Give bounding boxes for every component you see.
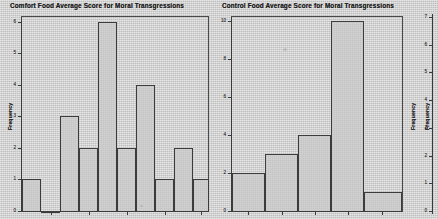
bar-comfort-8 <box>155 179 174 212</box>
x-tick-comfort-2 <box>89 212 90 215</box>
chart-title-comfort-food: Comfort Food Average Score for Moral Tra… <box>10 2 184 9</box>
y-axis-line-third <box>432 14 433 214</box>
y-tick-label-third-1: 1 <box>419 180 427 185</box>
y-tick-label-control-0: 0 <box>218 208 226 213</box>
y-tick-comfort-4 <box>18 85 21 86</box>
y-tick-comfort-6 <box>18 22 21 23</box>
y-tick-comfort-0 <box>18 211 21 212</box>
y-tick-third-7 <box>429 17 432 18</box>
bar-control-3 <box>298 135 331 212</box>
y-tick-label-comfort-1: 1 <box>8 176 16 181</box>
y-tick-label-third-5: 5 <box>419 69 427 74</box>
y-tick-third-6 <box>429 45 432 46</box>
y-tick-third-4 <box>429 100 432 101</box>
y-tick-label-third-2: 2 <box>419 153 427 158</box>
bar-comfort-6 <box>117 148 136 212</box>
y-tick-comfort-2 <box>18 148 21 149</box>
y-tick-label-third-3: 3 <box>419 125 427 130</box>
x-tick-control-4 <box>348 212 349 215</box>
bar-control-5 <box>364 192 402 212</box>
bar-control-2 <box>265 154 298 212</box>
bar-comfort-4 <box>79 148 98 212</box>
y-tick-label-third-7: 7 <box>419 14 427 19</box>
x-tick-control-5 <box>382 212 383 215</box>
y-tick-label-comfort-0: 0 <box>8 208 16 213</box>
x-tick-comfort-5 <box>201 212 202 215</box>
y-tick-label-control-10: 10 <box>216 18 226 23</box>
x-tick-comfort-4 <box>165 212 166 215</box>
x-tick-comfort-3 <box>127 212 128 215</box>
bar-comfort-5 <box>98 22 117 212</box>
y-tick-third-5 <box>429 72 432 73</box>
y-tick-label-comfort-3: 3 <box>8 113 16 118</box>
y-tick-control-8 <box>228 59 231 60</box>
y-tick-label-comfort-2: 2 <box>8 145 16 150</box>
bar-comfort-9 <box>174 148 193 212</box>
y-tick-label-control-2: 2 <box>218 170 226 175</box>
x-tick-control-3 <box>315 212 316 215</box>
x-tick-control-1 <box>248 212 249 215</box>
chart-third-partial: Frequency 0 1 2 3 4 5 6 7 <box>418 0 438 219</box>
y-tick-control-0 <box>228 211 231 212</box>
frame-top-control <box>231 16 403 17</box>
y-tick-label-control-4: 4 <box>218 132 226 137</box>
y-tick-label-third-4: 4 <box>419 97 427 102</box>
x-tick-control-2 <box>282 212 283 215</box>
y-tick-label-third-6: 6 <box>419 42 427 47</box>
y-tick-third-3 <box>429 128 432 129</box>
y-tick-label-control-6: 6 <box>218 94 226 99</box>
y-tick-third-2 <box>429 156 432 157</box>
y-tick-label-control-8: 8 <box>218 56 226 61</box>
scan-smudge <box>140 205 143 207</box>
y-tick-third-0 <box>429 211 432 212</box>
y-tick-control-2 <box>228 173 231 174</box>
bar-comfort-1 <box>22 179 41 212</box>
y-tick-third-1 <box>429 183 432 184</box>
bar-comfort-10 <box>193 179 209 212</box>
y-tick-comfort-3 <box>18 116 21 117</box>
y-tick-label-comfort-5: 5 <box>8 50 16 55</box>
bar-control-4 <box>331 21 364 212</box>
y-axis-label-control-food: Frequency <box>410 103 416 130</box>
chart-comfort-food: Comfort Food Average Score for Moral Tra… <box>0 0 218 219</box>
chart-title-control-food: Control Food Average Score for Moral Tra… <box>222 2 394 9</box>
chart-control-food: Control Food Average Score for Moral Tra… <box>218 0 418 219</box>
y-tick-control-6 <box>228 97 231 98</box>
x-tick-comfort-1 <box>51 212 52 215</box>
frame-top-comfort <box>21 16 209 17</box>
bar-comfort-3 <box>60 116 79 212</box>
bar-comfort-7 <box>136 85 155 212</box>
bar-control-1 <box>232 173 265 212</box>
frame-right-control <box>402 16 403 212</box>
scan-smudge <box>283 48 287 51</box>
y-tick-comfort-5 <box>18 53 21 54</box>
y-tick-label-third-0: 0 <box>419 208 427 213</box>
y-tick-label-comfort-4: 4 <box>8 82 16 87</box>
y-tick-control-4 <box>228 135 231 136</box>
y-tick-comfort-1 <box>18 179 21 180</box>
y-tick-label-comfort-6: 6 <box>8 19 16 24</box>
y-tick-control-10 <box>228 21 231 22</box>
